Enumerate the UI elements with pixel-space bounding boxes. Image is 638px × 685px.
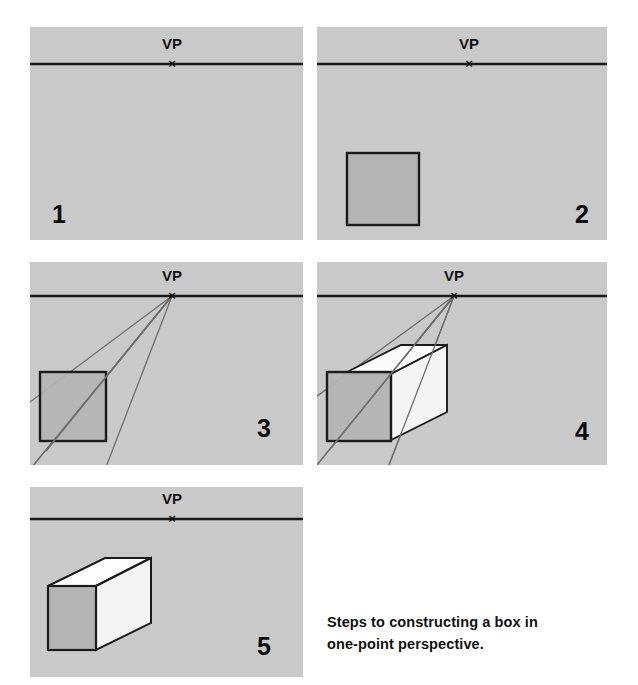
panel-step-1: VP × 1 (30, 27, 303, 240)
caption-line-2: one-point perspective. (327, 634, 627, 656)
figure-caption: Steps to constructing a box in one-point… (327, 612, 627, 656)
panel-1-drawing: VP × 1 (30, 27, 303, 240)
vp-label: VP (444, 267, 464, 284)
panel-step-3: VP × 3 (30, 262, 303, 465)
vp-label: VP (459, 35, 479, 52)
vp-mark-icon: × (465, 56, 473, 71)
panel-2-drawing: VP × 2 (317, 27, 607, 240)
vp-label: VP (162, 267, 182, 284)
panel-3-drawing: VP × 3 (30, 262, 303, 465)
vp-mark-icon: × (168, 56, 176, 71)
step-number: 5 (257, 632, 271, 660)
step-number: 2 (575, 200, 589, 228)
vp-label: VP (162, 490, 182, 507)
vp-mark-icon: × (168, 511, 176, 526)
panel-5-drawing: VP × 5 (30, 487, 303, 677)
box-front-face (48, 586, 96, 650)
vp-mark-icon: × (168, 288, 176, 303)
step-number: 1 (52, 200, 66, 228)
panel-step-2: VP × 2 (317, 27, 607, 240)
vp-mark-icon: × (450, 288, 458, 303)
panel-step-4: VP × 4 (317, 262, 607, 465)
step-number: 3 (257, 414, 271, 442)
panel-4-drawing: VP × 4 (317, 262, 607, 465)
front-square (347, 153, 419, 225)
caption-line-1: Steps to constructing a box in (327, 612, 627, 634)
panel-step-5: VP × 5 (30, 487, 303, 677)
front-square (327, 372, 391, 441)
vp-label: VP (162, 35, 182, 52)
step-number: 4 (575, 417, 589, 445)
figure-stage: VP × 1 VP × 2 (0, 0, 638, 685)
front-square (40, 372, 106, 441)
